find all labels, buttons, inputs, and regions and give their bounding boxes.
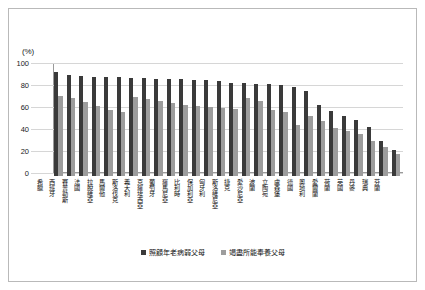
bar-series-2: [358, 134, 362, 176]
gridline: [31, 63, 403, 64]
bar-group: [142, 67, 152, 176]
bar-group: [217, 67, 227, 176]
bar-series-2: [133, 97, 137, 176]
bar-group: [354, 67, 364, 176]
bar-series-2: [396, 154, 400, 176]
bar-group: [154, 67, 164, 176]
chart-figure: (%) 100806040200 希臘西班牙賽普勒斯法國拉脫維亞馬爾他斯洛伐克義…: [8, 8, 417, 282]
x-axis-label: 盧森堡: [270, 179, 280, 237]
bar-series-2: [171, 103, 175, 176]
y-axis-tick-label: 100: [5, 59, 29, 68]
x-axis-label: 羅馬尼亞: [157, 179, 167, 237]
x-axis-labels: 希臘西班牙賽普勒斯法國拉脫維亞馬爾他斯洛伐克義大利克羅埃西亞葡萄牙羅馬尼亞比利時…: [32, 179, 380, 237]
chart-legend: 照顧年老病弱父母竭盡所能奉養父母: [9, 247, 416, 257]
x-axis-label: 葡萄牙: [145, 179, 155, 237]
x-axis-label: 捷克: [220, 179, 230, 237]
x-axis-label: 克羅埃西亞: [132, 179, 142, 237]
x-axis-label: 荷蘭: [320, 179, 330, 237]
x-axis-label: 馬爾他: [95, 179, 105, 237]
bar-series-container: [54, 67, 402, 176]
bar-group: [342, 67, 352, 176]
bar-series-2: [183, 105, 187, 177]
bar-group: [167, 67, 177, 176]
x-axis-label: 斯洛維尼亞: [207, 179, 217, 237]
legend-label: 照顧年老病弱父母: [149, 247, 205, 257]
x-axis-label: 德國: [282, 179, 292, 237]
bar-series-2: [158, 101, 162, 176]
bar-series-2: [208, 107, 212, 176]
bar-group: [367, 67, 377, 176]
legend-swatch-icon: [141, 250, 146, 255]
bar-series-2: [146, 99, 150, 176]
bar-series-2: [108, 110, 112, 176]
plot-area: 100806040200: [31, 63, 403, 177]
y-axis-tick-label: 20: [5, 147, 29, 156]
x-axis-label: 拉脫維亞: [82, 179, 92, 237]
x-axis-label: 義大利: [120, 179, 130, 237]
bar-series-2: [346, 131, 350, 176]
bar-group: [104, 67, 114, 176]
x-axis-label: 愛沙尼亞: [232, 179, 242, 237]
bar-series-2: [283, 112, 287, 176]
bar-group: [254, 67, 264, 176]
bar-group: [117, 67, 127, 176]
bar-series-2: [296, 125, 300, 176]
bar-series-2: [371, 141, 375, 176]
y-axis-tick-label: 0: [5, 169, 29, 178]
x-axis-label: 愛爾蘭: [307, 179, 317, 237]
bar-group: [379, 67, 389, 176]
bar-series-2: [96, 106, 100, 176]
legend-item[interactable]: 照顧年老病弱父母: [141, 247, 205, 257]
legend-swatch-icon: [221, 250, 226, 255]
bar-series-2: [221, 108, 225, 176]
bar-group: [179, 67, 189, 176]
bar-series-2: [321, 121, 325, 176]
bar-series-2: [83, 102, 87, 176]
x-axis-label: 瑞典: [357, 179, 367, 237]
bar-series-2: [258, 101, 262, 176]
legend-label: 竭盡所能奉養父母: [229, 247, 285, 257]
x-axis-label: 斯洛伐克: [107, 179, 117, 237]
y-axis-tick-label: 60: [5, 103, 29, 112]
x-axis-label: 立陶宛: [257, 179, 267, 237]
bar-group: [392, 67, 402, 176]
bar-series-2: [246, 98, 250, 176]
y-axis-unit-label: (%): [22, 47, 34, 56]
bar-group: [304, 67, 314, 176]
bar-group: [92, 67, 102, 176]
x-axis-label: 賽普勒斯: [57, 179, 67, 237]
bar-series-2: [271, 110, 275, 176]
x-axis-label: 西班牙: [45, 179, 55, 237]
bar-series-2: [233, 109, 237, 176]
legend-item[interactable]: 竭盡所能奉養父母: [221, 247, 285, 257]
bar-group: [229, 67, 239, 176]
bar-group: [267, 67, 277, 176]
x-axis-label: 波蘭: [245, 179, 255, 237]
bar-group: [292, 67, 302, 176]
bar-group: [329, 67, 339, 176]
bar-group: [192, 67, 202, 176]
bar-series-2: [308, 116, 312, 177]
bar-series-2: [196, 106, 200, 176]
x-axis-label: 芬蘭: [370, 179, 380, 237]
y-axis-tick-label: 80: [5, 81, 29, 90]
x-axis-label: 英國: [332, 179, 342, 237]
x-axis-label: 希臘: [32, 179, 42, 237]
x-axis-label: 奧地利: [295, 179, 305, 237]
bar-series-2: [121, 112, 125, 176]
bar-group: [129, 67, 139, 176]
x-axis-label: 匈牙利: [195, 179, 205, 237]
y-axis-tick-label: 40: [5, 125, 29, 134]
bar-group: [279, 67, 289, 176]
bar-group: [317, 67, 327, 176]
bar-group: [67, 67, 77, 176]
bar-series-2: [383, 147, 387, 176]
x-axis-label: 法國: [70, 179, 80, 237]
bar-group: [242, 67, 252, 176]
x-axis-label: 丹麥: [345, 179, 355, 237]
x-axis-label: 保加利亞: [182, 179, 192, 237]
bar-group: [79, 67, 89, 176]
bar-group: [204, 67, 214, 176]
x-axis-label: 比利時: [170, 179, 180, 237]
bar-series-2: [333, 128, 337, 176]
